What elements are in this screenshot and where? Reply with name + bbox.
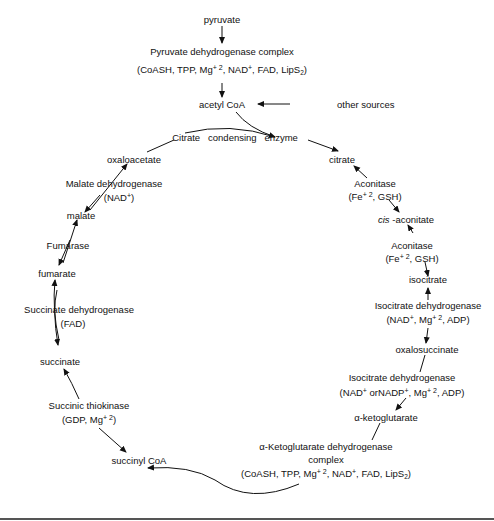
pdh-name: Pyruvate dehydrogenase complex [150,46,294,57]
citrate-condensing-enzyme-label: Citrate condensing enzyme [172,132,298,143]
icdh-1-cofactors: (NAD+, Mg+ 2, ADP) [386,314,469,325]
akgdh-cofactors: (CoASH, TPP, Mg+ 2, NAD+, FAD, LipS2) [241,468,411,479]
cis-aconitate-label: cis -aconitate [378,214,434,225]
succinic-thiokinase-name: Succinic thiokinase [49,400,130,411]
icdh-1-name: Isocitrate dehydrogenase [375,300,482,311]
aconitase-2-name: Aconitase [391,240,433,251]
pdh-cofactors: (CoASH, TPP, Mg+ 2, NAD+, FAD, LipS2) [137,64,307,75]
alpha-ketoglutarate-label: α-ketoglutarate [354,412,418,423]
succinate-label: succinate [40,356,80,367]
isocitrate-label: isocitrate [409,274,447,285]
aconitase-1-cofactors: (Fe+ 2, GSH) [348,191,401,202]
mdh-cofactors: (NAD+) [104,192,135,203]
oxaloacetate-label: oxaloacetate [107,154,161,165]
succinyl-coa-label: succinyl CoA [112,455,167,466]
akgdh-name-2: complex [308,454,343,465]
aconitase-1-name: Aconitase [354,178,396,189]
pyruvate-label: pyruvate [204,14,240,25]
fumarate-label: fumarate [38,268,76,279]
acetyl-coa-label: acetyl CoA [199,99,245,110]
mdh-name: Malate dehydrogenase [66,178,163,189]
fumarase-name: Fumarase [47,240,90,251]
icdh-2-name: Isocitrate dehydrogenase [349,372,456,383]
akgdh-name: α-Ketoglutarate dehydrogenase [259,441,392,452]
oxalosuccinate-label: oxalosuccinate [396,344,459,355]
other-sources-label: other sources [337,99,395,110]
citrate-label: citrate [329,154,355,165]
icdh-2-cofactors: (NAD+ orNADP+, Mg+ 2, ADP) [340,387,465,398]
sdh-cofactors: (FAD) [61,318,86,329]
malate-label: malate [67,210,96,221]
succinic-thiokinase-cofactors: (GDP, Mg+ 2) [62,414,116,425]
sdh-name: Succinate dehydrogenase [24,304,134,315]
bottom-rule [0,518,494,520]
aconitase-2-cofactors: (Fe+ 2, GSH) [385,253,438,264]
